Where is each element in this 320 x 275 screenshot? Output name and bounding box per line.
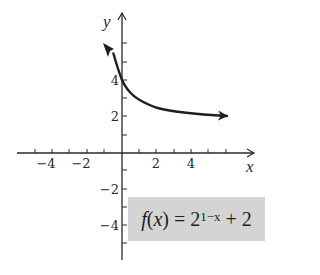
formula-tail: + 2 — [221, 208, 252, 231]
x-tick-label-neg4: −4 — [36, 156, 55, 171]
curve-left-arrowhead — [103, 43, 114, 57]
x-tick-label-neg2: −2 — [71, 156, 90, 171]
y-tick-label-4: 4 — [111, 73, 119, 88]
y-ticks — [122, 43, 127, 243]
y-tick-label-neg2: −2 — [100, 182, 119, 197]
x-axis-label: x — [245, 157, 254, 176]
x-tick-label-2: 2 — [152, 156, 160, 171]
y-tick-label-neg4: −4 — [100, 218, 119, 233]
formula-close-paren: ) — [162, 208, 169, 231]
x-tick-label-4: 4 — [187, 156, 195, 171]
formula-equals-base: = 2 — [169, 208, 200, 231]
y-tick-label-2: 2 — [111, 109, 119, 124]
function-curve — [113, 54, 227, 117]
y-axis-label: y — [101, 12, 111, 31]
function-formula-label: f(x) = 21−x + 2 — [128, 197, 265, 241]
formula-x: x — [153, 208, 162, 231]
formula-exponent: 1−x — [200, 209, 220, 225]
